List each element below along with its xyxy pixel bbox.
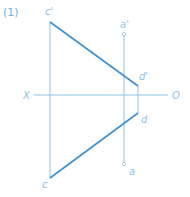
axis-label-x: X [22,90,31,101]
label-c-prime: c' [45,6,53,17]
label-d-prime: d' [139,71,148,82]
label-c: c [42,179,48,190]
label-d: d [141,114,148,125]
figure-number: (1) [3,6,19,19]
projection-diagram: (1) X O c' c d' d a' a [0,0,190,197]
axis-label-o: O [172,90,180,101]
point-a-marker [122,162,125,165]
line-c-prime-d-prime [50,22,138,86]
label-a-prime: a' [120,19,129,30]
point-a-prime-marker [122,32,125,35]
line-c-d [50,113,138,178]
label-a: a [129,166,135,177]
